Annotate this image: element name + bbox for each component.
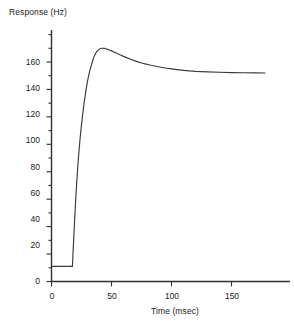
y-tick-label-40: 40 xyxy=(14,215,40,224)
x-axis-ticks xyxy=(52,282,232,287)
y-tick-label-120: 120 xyxy=(14,110,40,119)
y-axis-label: Response (Hz) xyxy=(9,7,67,17)
x-tick-label-50: 50 xyxy=(97,292,127,301)
y-tick-label-60: 60 xyxy=(14,189,40,198)
y-tick-label-140: 140 xyxy=(14,84,40,93)
y-tick-label-20: 20 xyxy=(14,241,40,250)
y-tick-label-160: 160 xyxy=(14,58,40,67)
y-tick-label-0: 0 xyxy=(14,277,40,286)
y-tick-label-80: 80 xyxy=(14,163,40,172)
axis-lines xyxy=(52,30,291,282)
x-tick-label-100: 100 xyxy=(157,292,187,301)
x-tick-label-150: 150 xyxy=(217,292,247,301)
x-tick-label-0: 0 xyxy=(37,292,67,301)
y-tick-label-100: 100 xyxy=(14,136,40,145)
response-curve xyxy=(52,48,266,266)
y-axis-ticks xyxy=(47,35,52,282)
response-time-chart: Response (Hz) Time (msec) 160 140 120 10… xyxy=(0,0,294,328)
x-axis-label: Time (msec) xyxy=(151,306,199,316)
plot-area xyxy=(0,0,294,328)
